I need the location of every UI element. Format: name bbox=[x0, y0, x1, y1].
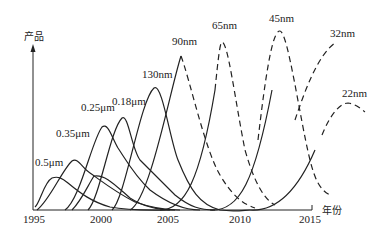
label-130nm: 130nm bbox=[142, 68, 173, 80]
curve-0.18um bbox=[88, 118, 215, 210]
label-90nm: 90nm bbox=[172, 35, 198, 47]
x-tick-1995: 1995 bbox=[23, 213, 46, 225]
y-axis-label: 产品 bbox=[24, 30, 44, 42]
label-32nm: 32nm bbox=[330, 27, 356, 39]
curve-32nm-solid bbox=[250, 150, 315, 210]
x-axis-label: 年份 bbox=[322, 204, 342, 216]
curve-22nm-dashed bbox=[322, 103, 365, 135]
x-tick-2010: 2010 bbox=[229, 213, 252, 225]
label-0.25um: 0.25μm bbox=[81, 101, 115, 113]
label-0.35um: 0.35μm bbox=[56, 127, 90, 139]
technology-node-chart: 产品 年份 1995 2000 2005 2010 2015 0.5μm 0.3 bbox=[0, 0, 385, 239]
x-tick-2000: 2000 bbox=[90, 213, 113, 225]
curve-90nm-dashed bbox=[181, 56, 255, 208]
label-45nm: 45nm bbox=[269, 12, 295, 24]
curve-45nm-dashed bbox=[258, 31, 330, 195]
label-22nm: 22nm bbox=[342, 87, 368, 99]
label-0.5um: 0.5μm bbox=[35, 156, 64, 168]
curve-32nm-dashed bbox=[295, 43, 335, 120]
label-0.18um: 0.18μm bbox=[112, 95, 146, 107]
x-tick-2005: 2005 bbox=[157, 213, 180, 225]
label-65nm: 65nm bbox=[212, 19, 238, 31]
x-tick-2015: 2015 bbox=[299, 213, 322, 225]
dashed-curves bbox=[181, 31, 365, 208]
curve-65nm-solid bbox=[160, 90, 215, 210]
y-axis-arrow-icon bbox=[31, 44, 36, 52]
curve-0.35um-shoulder bbox=[72, 176, 175, 210]
